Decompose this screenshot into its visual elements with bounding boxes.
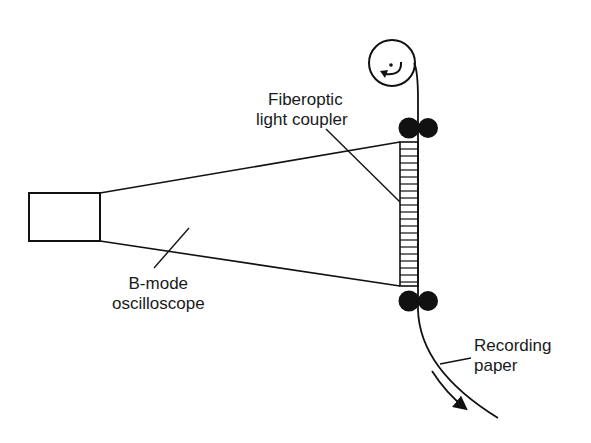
paper-label-line1: Recording	[474, 336, 552, 356]
coupler-label-line2: light coupler	[256, 110, 348, 130]
paper-supply-reel	[369, 40, 415, 86]
oscilloscope-label: B-mode oscilloscope	[112, 274, 205, 314]
oscilloscope-body	[29, 193, 100, 241]
oscilloscope-label-line1: B-mode	[112, 274, 205, 294]
scope-top-edge	[100, 142, 400, 193]
fiberoptic-coupler	[400, 142, 418, 286]
coupler-label-line1: Fiberoptic	[256, 90, 348, 110]
coupler-label: Fiberoptic light coupler	[256, 90, 348, 130]
paper-label: Recording paper	[474, 336, 552, 376]
oscilloscope-label-line2: oscilloscope	[112, 294, 205, 314]
paper-leader-line	[440, 358, 471, 364]
paper-label-line2: paper	[474, 356, 552, 376]
coupler-leader-line	[326, 129, 400, 202]
scope-leader-line	[154, 228, 189, 268]
diagram-drawing	[0, 0, 591, 443]
diagram-canvas: Fiberoptic light coupler B-mode oscillos…	[0, 0, 591, 443]
